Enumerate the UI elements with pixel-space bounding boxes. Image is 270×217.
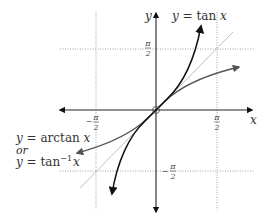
tick-y-pos-half-pi: π 2 [144, 39, 151, 58]
svg-text:π: π [169, 162, 176, 171]
diagram-canvas: y x y = tan x y = arctan x or y = tan−1x… [0, 0, 270, 217]
x-axis-label: x [250, 113, 257, 127]
svg-text:2: 2 [213, 123, 219, 132]
arctan-label-line2: y = tan−1x [15, 154, 80, 169]
svg-text:−: − [86, 117, 93, 126]
svg-text:2: 2 [92, 123, 98, 132]
tick-x-pos-half-pi: π 2 [213, 113, 220, 132]
arctan-label-line1: y = arctan x [15, 131, 91, 145]
asymptote-lines [60, 12, 255, 210]
tick-x-neg-half-pi: − π 2 [86, 113, 100, 132]
svg-text:2: 2 [169, 172, 175, 181]
y-axis-label: y [144, 9, 152, 23]
svg-text:−: − [162, 167, 169, 176]
svg-text:π: π [144, 39, 151, 48]
svg-text:2: 2 [144, 49, 150, 58]
tick-y-neg-half-pi: − π 2 [162, 162, 177, 181]
svg-text:π: π [213, 113, 220, 122]
tan-label: y = tan x [171, 9, 227, 23]
svg-text:π: π [92, 113, 99, 122]
